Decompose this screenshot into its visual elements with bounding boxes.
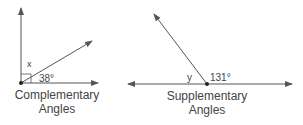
- diagonal-ray: [21, 41, 92, 83]
- caption-line2: Angles: [189, 103, 226, 117]
- unknown-angle-label: x: [27, 59, 32, 69]
- vertex-point: [205, 82, 209, 86]
- diagonal-ray: [154, 14, 207, 84]
- complementary-angles-figure: x 38° Complementary Angles: [15, 8, 100, 116]
- caption-line2: Angles: [39, 102, 76, 116]
- caption-line1: Supplementary: [167, 89, 248, 103]
- unknown-angle-label: y: [187, 72, 192, 83]
- angle-value-label: 131°: [210, 72, 231, 83]
- caption-line1: Complementary: [15, 88, 100, 102]
- angles-diagram: x 38° Complementary Angles y 131° Supple…: [0, 0, 303, 125]
- angle-value-label: 38°: [39, 73, 54, 84]
- supplementary-angles-figure: y 131° Supplementary Angles: [128, 14, 292, 117]
- vertex-point: [19, 81, 23, 85]
